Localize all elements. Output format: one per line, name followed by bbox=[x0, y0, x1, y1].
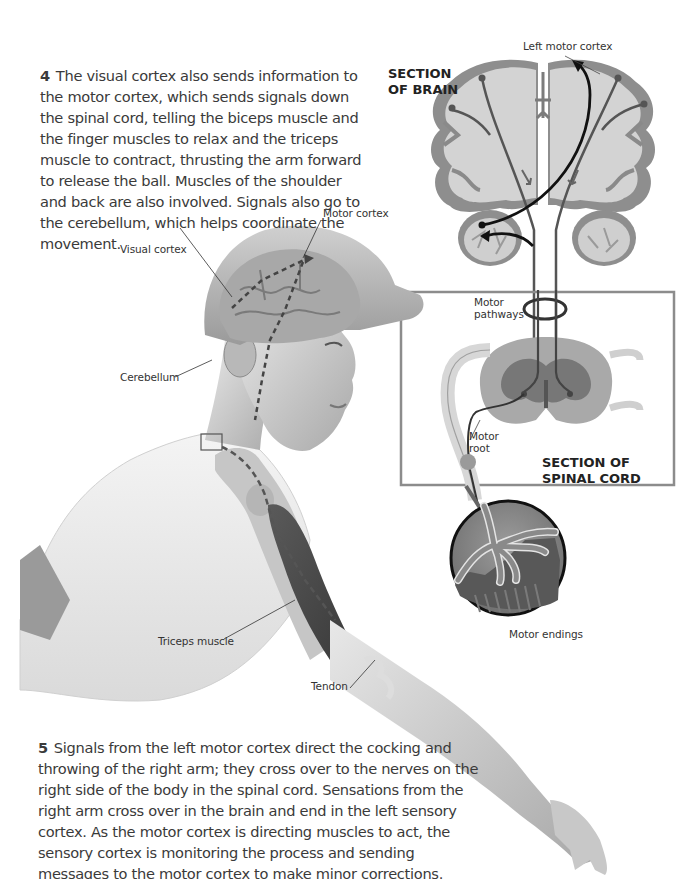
label-triceps-muscle: Triceps muscle bbox=[158, 635, 234, 647]
step-4-caption: 4The visual cortex also sends informatio… bbox=[40, 65, 370, 254]
step-5-caption: 5Signals from the left motor cortex dire… bbox=[38, 737, 483, 879]
label-motor-cortex: Motor cortex bbox=[323, 207, 389, 219]
step-text: The visual cortex also sends information… bbox=[40, 67, 361, 252]
step-number: 5 bbox=[38, 739, 48, 756]
title-line: SECTION bbox=[388, 66, 458, 82]
label-motor-pathways: Motor pathways bbox=[474, 296, 524, 320]
section-of-spinal-cord-title: SECTION OF SPINAL CORD bbox=[542, 455, 641, 487]
anatomy-page: 4The visual cortex also sends informatio… bbox=[0, 0, 686, 879]
step-text: Signals from the left motor cortex direc… bbox=[38, 739, 478, 879]
motor-endings-diagram bbox=[451, 486, 565, 615]
label-left-motor-cortex: Left motor cortex bbox=[523, 40, 612, 52]
title-line: SECTION OF bbox=[542, 455, 641, 471]
step-number: 4 bbox=[40, 67, 50, 84]
label-cerebellum: Cerebellum bbox=[120, 371, 179, 383]
label-line: root bbox=[469, 442, 499, 454]
label-visual-cortex: Visual cortex bbox=[120, 243, 187, 255]
label-line: pathways bbox=[474, 308, 524, 320]
label-motor-root: Motor root bbox=[469, 430, 499, 454]
title-line: OF BRAIN bbox=[388, 82, 458, 98]
title-line: SPINAL CORD bbox=[542, 471, 641, 487]
label-motor-endings: Motor endings bbox=[509, 628, 583, 640]
label-tendon: Tendon bbox=[311, 680, 348, 692]
label-line: Motor bbox=[469, 430, 499, 442]
section-of-brain-title: SECTION OF BRAIN bbox=[388, 66, 458, 98]
label-line: Motor bbox=[474, 296, 524, 308]
